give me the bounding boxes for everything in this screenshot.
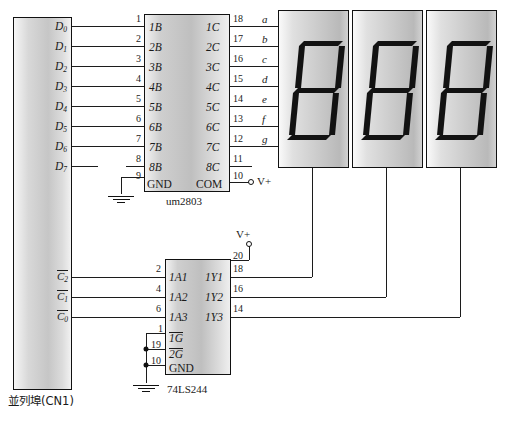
signal-label-d6: D6 bbox=[55, 141, 67, 154]
wire-um2803-gnd-v bbox=[121, 177, 122, 194]
wire-segment-c bbox=[230, 66, 278, 67]
segment-label-b: b bbox=[262, 34, 268, 45]
signal-label-d3: D3 bbox=[55, 81, 67, 94]
segment-label-d: d bbox=[262, 74, 268, 85]
pin-name-1b: 1B bbox=[149, 22, 162, 34]
wire-d0 bbox=[72, 26, 144, 27]
pin-number-5: 5 bbox=[136, 94, 141, 104]
pin-name-1a1: 1A1 bbox=[169, 272, 188, 284]
pin-name-2c: 2C bbox=[206, 42, 219, 54]
signal-label-d5: D5 bbox=[55, 121, 67, 134]
seven-segment-artwork-2 bbox=[353, 11, 424, 169]
pin-number-2: 2 bbox=[156, 264, 161, 274]
pin-number-15: 15 bbox=[233, 74, 243, 84]
pin-name-com: COM bbox=[196, 179, 222, 191]
pin-number-16: 16 bbox=[233, 54, 243, 64]
wire-1y1-v bbox=[312, 168, 313, 277]
segment-e-bar-3 bbox=[437, 93, 447, 135]
74ls244-part-label: 74LS244 bbox=[167, 384, 207, 395]
wire-pin11-stub bbox=[230, 166, 252, 167]
pin-number-3: 3 bbox=[136, 54, 141, 64]
wire-segment-a bbox=[230, 26, 278, 27]
pin-name-4c: 4C bbox=[206, 82, 219, 94]
pin-number-6: 6 bbox=[136, 114, 141, 124]
pin-name-3b: 3B bbox=[149, 62, 162, 74]
segment-g-bar-2 bbox=[367, 88, 413, 93]
wire-d3 bbox=[72, 86, 144, 87]
junction-dot-244gnd bbox=[144, 363, 149, 368]
wire-244gnd-h bbox=[146, 365, 165, 366]
pin-name-7b: 7B bbox=[149, 142, 162, 154]
wire-segment-f bbox=[230, 126, 278, 127]
segment-c-bar-3 bbox=[477, 93, 487, 135]
wire-1y2-h bbox=[231, 297, 386, 298]
segment-f-bar-1 bbox=[295, 46, 305, 88]
signal-label-c2: C2 bbox=[57, 270, 68, 284]
segment-d-bar-3 bbox=[435, 135, 479, 140]
segment-a-bar-3 bbox=[447, 41, 491, 46]
segment-g-bar-3 bbox=[441, 88, 487, 93]
pin-name-3c: 3C bbox=[206, 62, 219, 74]
vplus-terminal-74ls244 bbox=[246, 241, 252, 247]
seven-segment-artwork-1 bbox=[279, 11, 350, 169]
signal-label-d0: D0 bbox=[55, 21, 67, 34]
pin-number-1: 1 bbox=[136, 14, 141, 24]
pin-name-8c: 8C bbox=[206, 162, 219, 174]
wire-244-vcc-v bbox=[249, 245, 250, 260]
wire-segment-d bbox=[230, 86, 278, 87]
segment-f-bar-3 bbox=[443, 46, 453, 88]
wire-1y3-h bbox=[231, 317, 460, 318]
seven-segment-artwork-3 bbox=[427, 11, 498, 169]
pin-number-4: 4 bbox=[156, 284, 161, 294]
wire-1g-h bbox=[146, 333, 165, 334]
segment-g-bar-1 bbox=[293, 88, 339, 93]
pin-name-1y3: 1Y3 bbox=[205, 312, 223, 324]
pin-name-7c: 7C bbox=[206, 142, 219, 154]
pin-name-gnd: GND bbox=[147, 179, 172, 191]
pin-number-10: 10 bbox=[233, 171, 243, 181]
pin-number-16-y2: 16 bbox=[233, 284, 243, 294]
pin-name-4b: 4B bbox=[149, 82, 162, 94]
junction-dot-2g bbox=[144, 347, 149, 352]
pin-number-11: 11 bbox=[233, 154, 243, 164]
segment-label-f: f bbox=[262, 114, 265, 125]
wire-segment-g bbox=[230, 146, 278, 147]
pin-number-12: 12 bbox=[233, 134, 243, 144]
pin-number-14: 14 bbox=[233, 94, 243, 104]
wire-d1 bbox=[72, 46, 144, 47]
wire-2g-h bbox=[146, 349, 165, 350]
vplus-label-74ls244: V+ bbox=[236, 229, 250, 240]
vplus-label-um2803: V+ bbox=[257, 176, 271, 187]
wire-c2 bbox=[72, 277, 165, 278]
wire-c0 bbox=[72, 317, 165, 318]
pin-name-1g: 1G bbox=[169, 332, 183, 345]
segment-e-bar-1 bbox=[289, 93, 299, 135]
signal-label-d1: D1 bbox=[55, 41, 67, 54]
wire-d5 bbox=[72, 126, 144, 127]
pin-name-1a3: 1A3 bbox=[169, 312, 188, 324]
segment-label-e: e bbox=[262, 94, 267, 105]
wire-pin8-stub bbox=[126, 166, 144, 167]
wire-d6 bbox=[72, 146, 144, 147]
wire-1y3-v bbox=[460, 168, 461, 317]
wire-1y1-h bbox=[231, 277, 312, 278]
pin-number-14-y3: 14 bbox=[233, 304, 243, 314]
signal-label-d7: D7 bbox=[55, 161, 67, 174]
wire-um2803-vplus bbox=[230, 182, 250, 183]
wire-244-vcc-h bbox=[231, 260, 249, 261]
wire-segment-b bbox=[230, 46, 278, 47]
pin-number-9: 9 bbox=[136, 171, 141, 181]
pin-name-6c: 6C bbox=[206, 122, 219, 134]
vplus-terminal-um2803 bbox=[248, 179, 254, 185]
pin-number-7: 7 bbox=[136, 134, 141, 144]
pin-name-5b: 5B bbox=[149, 102, 162, 114]
segment-f-bar-2 bbox=[369, 46, 379, 88]
segment-a-bar-1 bbox=[299, 41, 343, 46]
pin-number-4: 4 bbox=[136, 74, 141, 84]
segment-a-bar-2 bbox=[373, 41, 417, 46]
pin-name-1a2: 1A2 bbox=[169, 292, 188, 304]
pin-name-244-gnd: GND bbox=[169, 363, 194, 375]
um2803-part-label: um2803 bbox=[166, 196, 202, 207]
pin-number-2: 2 bbox=[136, 34, 141, 44]
segment-label-a: a bbox=[262, 14, 268, 25]
